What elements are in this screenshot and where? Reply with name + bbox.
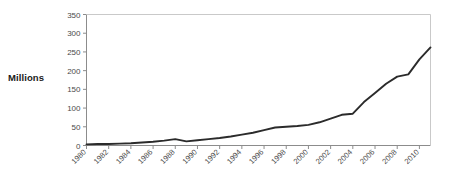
x-tick-label: 1986 <box>136 148 154 166</box>
y-tick-label: 100 <box>67 104 81 113</box>
y-tick-label: 50 <box>72 123 81 132</box>
axis-frame <box>87 15 431 146</box>
x-tick-label: 2004 <box>336 148 354 166</box>
x-tick-label: 2000 <box>292 148 310 166</box>
y-tick-label: 250 <box>67 48 81 57</box>
y-tick-label: 200 <box>67 67 81 76</box>
x-tick-label: 1996 <box>247 148 265 166</box>
x-tick-label: 2010 <box>402 148 420 166</box>
x-tick-label: 1980 <box>70 148 88 166</box>
data-series-line <box>87 47 431 144</box>
x-tick-group: 1980198219841986198819901992199419961998… <box>70 146 421 166</box>
x-tick-label: 2008 <box>380 148 398 166</box>
x-tick-label: 2006 <box>358 148 376 166</box>
x-tick-label: 2002 <box>314 148 332 166</box>
y-tick-label: 350 <box>67 11 81 20</box>
y-tick-group: 050100150200250300350 <box>67 11 86 151</box>
y-axis-title: Millions <box>8 72 44 83</box>
x-tick-label: 1984 <box>114 148 132 166</box>
x-tick-label: 1994 <box>225 148 243 166</box>
x-tick-label: 1982 <box>92 148 110 166</box>
line-chart: Millions 050100150200250300350 198019821… <box>0 0 452 183</box>
x-tick-label: 1990 <box>181 148 199 166</box>
y-tick-label: 150 <box>67 85 81 94</box>
y-tick-label: 300 <box>67 29 81 38</box>
x-tick-label: 1998 <box>269 148 287 166</box>
x-tick-label: 1992 <box>203 148 221 166</box>
x-tick-label: 1988 <box>158 148 176 166</box>
chart-plot-area: 050100150200250300350 198019821984198619… <box>0 0 452 183</box>
